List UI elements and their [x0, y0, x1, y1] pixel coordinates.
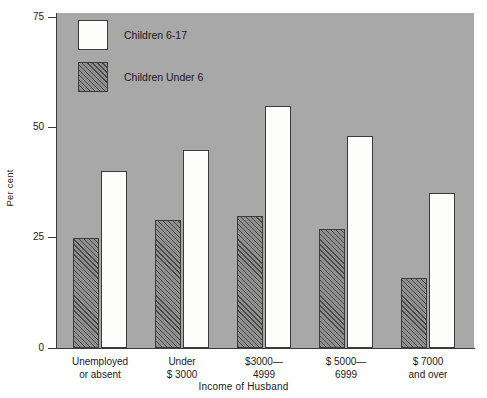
y-tick-label-0-wrap: 0: [0, 343, 44, 353]
bar-6to17-3000-4999: [265, 106, 291, 348]
y-tick-label-0: 0: [0, 343, 44, 353]
legend-swatch-hatched-icon: [78, 62, 108, 92]
legend-item-children-under-6: Children Under 6: [78, 62, 203, 92]
legend-label-children-6-17: Children 6-17: [124, 29, 187, 41]
x-category-label-4-line1: $ 7000: [378, 355, 478, 368]
bar-6to17-7000-and-over: [429, 193, 455, 348]
y-tick-0: [48, 348, 57, 349]
bar-under6-3000-4999: [237, 216, 263, 348]
y-axis-line: [56, 13, 57, 349]
x-category-label-4: $ 7000 and over: [378, 355, 478, 381]
y-tick-label-50-wrap: 50: [0, 122, 44, 132]
legend-item-children-6-17: Children 6-17: [78, 20, 187, 50]
y-tick-50: [48, 127, 57, 128]
bar-chart: 75 50 25 0 Per cent Unemployed or absent…: [0, 0, 487, 398]
y-tick-label-75: 75: [0, 12, 44, 22]
legend-swatch-light-icon: [78, 20, 108, 50]
bar-under6-7000-and-over: [401, 278, 427, 348]
y-axis-title: Per cent: [5, 158, 15, 218]
x-axis-line: [56, 348, 475, 349]
y-tick-label-25-wrap: 25: [0, 232, 44, 242]
bar-6to17-5000-6999: [347, 136, 373, 348]
legend-label-children-under-6: Children Under 6: [124, 71, 203, 83]
y-tick-label-75-wrap: 75: [0, 12, 44, 22]
bar-under6-5000-6999: [319, 229, 345, 348]
y-tick-75: [48, 17, 57, 18]
y-tick-label-25: 25: [0, 232, 44, 242]
y-tick-label-50: 50: [0, 122, 44, 132]
x-axis-title: Income of Husband: [0, 381, 487, 393]
bar-6to17-unemployed-or-absent: [101, 171, 127, 348]
bar-6to17-under-3000: [183, 150, 209, 348]
bar-under6-unemployed-or-absent: [73, 238, 99, 348]
bar-under6-under-3000: [155, 220, 181, 348]
x-category-label-4-line2: and over: [378, 368, 478, 381]
y-tick-25: [48, 237, 57, 238]
